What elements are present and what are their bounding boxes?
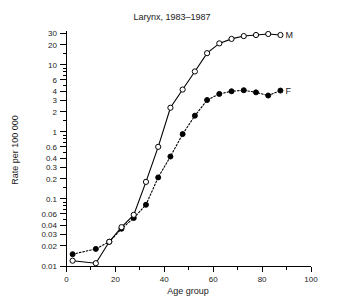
y-tick-label-0.04: 0.04 [41,221,57,230]
y-tick-label-0.06: 0.06 [41,210,57,219]
data-point-m [229,36,234,41]
data-point-m [217,41,222,46]
y-tick-label-20: 20 [48,41,57,50]
data-point-m [253,32,258,37]
y-tick-label-0.3: 0.3 [46,163,58,172]
data-point-f [205,98,210,103]
chart-title: Larynx, 1983–1987 [133,12,210,22]
x-tick-label-80: 80 [258,275,267,284]
data-point-f [180,132,185,137]
data-point-f [229,89,234,94]
data-point-m [180,87,185,92]
data-point-m [156,144,161,149]
y-tick-label-0.4: 0.4 [46,154,58,163]
data-point-f [93,246,98,251]
data-point-m [70,258,75,263]
y-tick-label-30: 30 [48,29,57,38]
series-m-label: M [285,30,293,40]
x-tick-label-20: 20 [111,275,120,284]
data-point-f [278,88,283,93]
data-point-f [70,252,75,257]
data-point-m [107,239,112,244]
data-point-f [217,91,222,96]
data-point-m [131,212,136,217]
data-point-m [204,51,209,56]
data-point-f [156,175,161,180]
y-tick-label-0.02: 0.02 [41,242,57,251]
data-point-m [168,105,173,110]
data-point-m [119,225,124,230]
y-tick-label-0.03: 0.03 [41,230,57,239]
y-tick-label-0.01: 0.01 [41,262,57,271]
larynx-rate-line-chart: Larynx, 1983–1987 Rate per 100 000 Age g… [0,0,345,302]
y-axis-title: Rate per 100 000 [10,115,20,185]
x-axis-title: Age group [167,286,209,296]
y-tick-label-6: 6 [53,76,58,85]
x-tick-label-100: 100 [304,275,318,284]
y-tick-label-0.6: 0.6 [46,143,58,152]
y-tick-label-2: 2 [53,108,58,117]
chart-figure: Larynx, 1983–1987 Rate per 100 000 Age g… [0,0,345,302]
x-tick-label-0: 0 [64,275,69,284]
data-point-m [241,33,246,38]
data-point-m [143,179,148,184]
data-point-f [241,88,246,93]
x-tick-label-40: 40 [160,275,169,284]
data-point-f [143,202,148,207]
data-point-f [168,154,173,159]
data-point-f [253,90,258,95]
y-tick-label-4: 4 [53,87,58,96]
y-tick-label-10: 10 [48,61,57,70]
data-point-m [93,261,98,266]
y-tick-label-3: 3 [53,96,58,105]
data-point-m [266,31,271,36]
y-tick-label-1: 1 [53,128,58,137]
data-point-m [278,32,283,37]
data-point-f [266,93,271,98]
y-tick-label-0.2: 0.2 [46,175,58,184]
y-tick-label-0.1: 0.1 [46,195,58,204]
data-point-f [192,113,197,118]
data-point-m [192,69,197,74]
x-tick-label-60: 60 [209,275,218,284]
series-f-label: F [285,86,291,96]
